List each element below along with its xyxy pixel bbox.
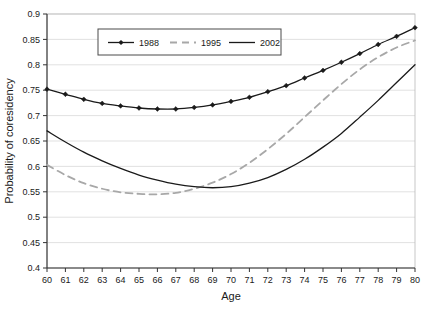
x-tick-label: 65 <box>134 275 144 285</box>
x-tick-label: 69 <box>208 275 218 285</box>
x-tick-label: 63 <box>97 275 107 285</box>
x-tick-label: 79 <box>392 275 402 285</box>
x-tick-label: 66 <box>152 275 162 285</box>
x-tick-label: 75 <box>318 275 328 285</box>
y-tick-label: 0.85 <box>22 35 40 45</box>
y-tick-label: 0.45 <box>22 238 40 248</box>
chart-legend: 198819952002 <box>98 29 281 55</box>
x-axis: 6061626364656667686970717273747576777879… <box>42 268 420 285</box>
y-axis-title: Probability of coresidency <box>3 78 15 204</box>
x-tick-label: 64 <box>116 275 126 285</box>
y-tick-label: 0.8 <box>27 60 40 70</box>
chart-figure: 0.40.450.50.550.60.650.70.750.80.850.9 6… <box>0 0 427 309</box>
y-tick-label: 0.9 <box>27 9 40 19</box>
x-axis-title: Age <box>221 290 241 302</box>
x-tick-label: 76 <box>336 275 346 285</box>
x-tick-label: 60 <box>42 275 52 285</box>
x-tick-label: 78 <box>373 275 383 285</box>
x-tick-label: 72 <box>263 275 273 285</box>
y-tick-label: 0.55 <box>22 187 40 197</box>
x-tick-label: 62 <box>79 275 89 285</box>
y-axis: 0.40.450.50.550.60.650.70.750.80.850.9 <box>22 9 47 273</box>
y-tick-label: 0.75 <box>22 85 40 95</box>
x-tick-label: 67 <box>171 275 181 285</box>
y-tick-label: 0.65 <box>22 136 40 146</box>
x-tick-label: 71 <box>244 275 254 285</box>
x-tick-label: 68 <box>189 275 199 285</box>
x-tick-label: 80 <box>410 275 420 285</box>
y-tick-label: 0.4 <box>27 263 40 273</box>
y-tick-label: 0.6 <box>27 162 40 172</box>
x-tick-label: 70 <box>226 275 236 285</box>
legend-label-1988: 1988 <box>139 38 159 48</box>
y-tick-label: 0.7 <box>27 111 40 121</box>
x-tick-label: 61 <box>60 275 70 285</box>
coresidency-line-chart: 0.40.450.50.550.60.650.70.750.80.850.9 6… <box>0 0 427 309</box>
x-tick-label: 74 <box>300 275 310 285</box>
y-tick-label: 0.5 <box>27 212 40 222</box>
legend-label-2002: 2002 <box>260 38 280 48</box>
x-tick-label: 77 <box>355 275 365 285</box>
legend-label-1995: 1995 <box>201 38 221 48</box>
x-tick-label: 73 <box>281 275 291 285</box>
